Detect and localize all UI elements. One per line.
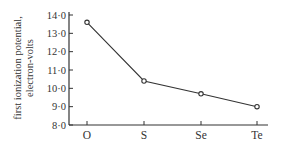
y-tick-label: 8·0 <box>52 120 66 131</box>
y-tick-label: 12·0 <box>47 46 66 57</box>
axes <box>69 12 268 125</box>
data-point-marker <box>85 20 89 24</box>
data-point-marker <box>142 79 146 83</box>
x-tick-label: S <box>141 129 147 141</box>
x-tick-label: Se <box>195 129 207 141</box>
series-line <box>87 22 257 106</box>
y-tick-label: 10·0 <box>47 83 66 94</box>
x-tick-label: Te <box>251 129 262 141</box>
data-point-marker <box>255 104 259 108</box>
x-axis-ticks: OSSeTe <box>83 121 263 141</box>
data-point-markers <box>85 20 259 109</box>
x-tick-label: O <box>83 129 91 141</box>
y-tick-label: 13·0 <box>47 28 66 39</box>
y-tick-label: 11·0 <box>47 65 66 76</box>
line-chart: 8·09·010·011·012·013·014·0 OSSeTe <box>0 0 283 153</box>
y-tick-label: 9·0 <box>52 101 66 112</box>
data-point-marker <box>199 92 203 96</box>
y-tick-label: 14·0 <box>47 10 66 21</box>
